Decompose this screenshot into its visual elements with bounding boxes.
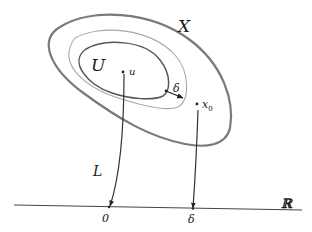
real-axis-line [14,205,302,210]
point-x0-dot [196,103,199,106]
map-arrow-x0-to-delta [193,110,198,208]
label-point-x0-subscript: 0 [208,105,212,113]
label-axis-zero: 0 [102,212,109,225]
label-delta-gap: δ [173,82,180,95]
label-point-u: u [129,66,135,77]
label-set-u: U [91,55,106,75]
label-map-l: L [92,163,102,179]
axis-delta-tick [192,207,194,209]
delta-gap-start-dot [165,90,168,93]
label-axis-real: ℝ [281,196,293,211]
label-axis-delta: δ [188,213,195,226]
diagram-canvas: X U u δ x0 L ℝ 0 δ [0,0,312,232]
point-u-dot [122,71,125,74]
axis-zero-tick [108,206,110,208]
label-point-x0: x0 [202,98,213,113]
label-space-x: X [176,16,191,36]
